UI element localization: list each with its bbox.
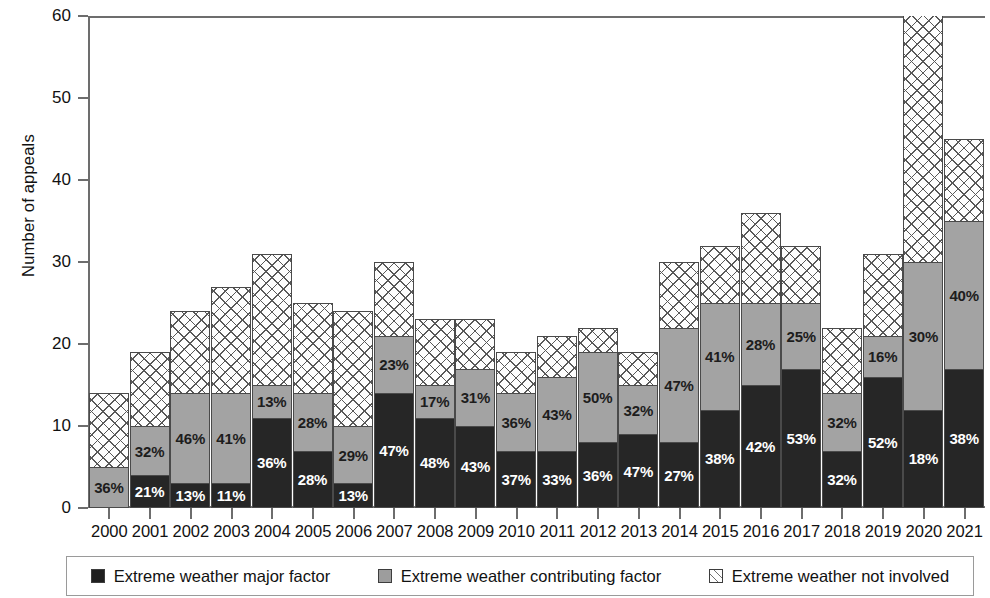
- bar-segment-hatch-2007[interactable]: [374, 262, 414, 336]
- bar-segment-hatch-2012[interactable]: [578, 328, 618, 353]
- bar-2020[interactable]: 30%18%: [903, 16, 943, 508]
- x-axis-tick-label: 2019: [865, 522, 902, 541]
- bar-segment-hatch-2008[interactable]: [415, 319, 455, 385]
- bar-segment-gray-2011[interactable]: 43%: [537, 377, 577, 451]
- bar-segment-gray-2012[interactable]: 50%: [578, 352, 618, 442]
- bar-segment-hatch-2015[interactable]: [700, 246, 740, 303]
- bar-segment-black-2007[interactable]: 47%: [374, 393, 414, 508]
- bar-segment-black-2019[interactable]: 52%: [863, 377, 903, 508]
- bar-segment-percent-label: 13%: [176, 488, 205, 503]
- bar-segment-black-2005[interactable]: 28%: [293, 451, 333, 508]
- bar-segment-hatch-2014[interactable]: [659, 262, 699, 328]
- bar-segment-black-2001[interactable]: 21%: [130, 475, 170, 508]
- bar-segment-black-2006[interactable]: 13%: [333, 483, 373, 508]
- bar-segment-hatch-2021[interactable]: [944, 139, 984, 221]
- bar-segment-hatch-2013[interactable]: [618, 352, 658, 385]
- chart-figure: Number of appeals 0102030405060 20002001…: [0, 0, 990, 598]
- bar-segment-black-2014[interactable]: 27%: [659, 442, 699, 508]
- bar-2008[interactable]: 17%48%: [415, 319, 455, 508]
- bar-2019[interactable]: 16%52%: [863, 254, 903, 508]
- bar-2000[interactable]: 36%: [89, 393, 129, 508]
- bar-segment-black-2017[interactable]: 53%: [781, 369, 821, 508]
- bar-2013[interactable]: 32%47%: [618, 352, 658, 508]
- bar-segment-black-2020[interactable]: 18%: [903, 410, 943, 508]
- bar-segment-hatch-2017[interactable]: [781, 246, 821, 303]
- bar-segment-gray-2004[interactable]: 13%: [252, 385, 292, 418]
- bar-2004[interactable]: 13%36%: [252, 254, 292, 508]
- bar-segment-gray-2010[interactable]: 36%: [496, 393, 536, 450]
- bar-2002[interactable]: 46%13%: [170, 311, 210, 508]
- bar-segment-gray-2008[interactable]: 17%: [415, 385, 455, 418]
- bar-segment-hatch-2019[interactable]: [863, 254, 903, 336]
- bar-2007[interactable]: 23%47%: [374, 262, 414, 508]
- bar-segment-black-2002[interactable]: 13%: [170, 483, 210, 508]
- bar-segment-gray-2007[interactable]: 23%: [374, 336, 414, 393]
- bar-segment-black-2004[interactable]: 36%: [252, 418, 292, 508]
- x-axis-tick-label: 2015: [702, 522, 739, 541]
- bar-segment-gray-2016[interactable]: 28%: [741, 303, 781, 385]
- bar-segment-gray-2006[interactable]: 29%: [333, 426, 373, 483]
- bar-segment-hatch-2000[interactable]: [89, 393, 129, 467]
- bar-segment-gray-2009[interactable]: 31%: [455, 369, 495, 426]
- bar-segment-gray-2020[interactable]: 30%: [903, 262, 943, 410]
- bar-2003[interactable]: 41%11%: [211, 287, 251, 508]
- bar-segment-percent-label: 46%: [176, 431, 205, 446]
- bar-segment-black-2015[interactable]: 38%: [700, 410, 740, 508]
- bar-segment-black-2018[interactable]: 32%: [822, 451, 862, 508]
- bar-segment-black-2009[interactable]: 43%: [455, 426, 495, 508]
- bar-segment-black-2008[interactable]: 48%: [415, 418, 455, 508]
- bar-2014[interactable]: 47%27%: [659, 262, 699, 508]
- bar-2018[interactable]: 32%32%: [822, 328, 862, 508]
- bar-2006[interactable]: 29%13%: [333, 311, 373, 508]
- bar-2005[interactable]: 28%28%: [293, 303, 333, 508]
- bar-segment-black-2013[interactable]: 47%: [618, 434, 658, 508]
- bar-segment-gray-2001[interactable]: 32%: [130, 426, 170, 475]
- bar-segment-hatch-2018[interactable]: [822, 328, 862, 394]
- bar-2021[interactable]: 40%38%: [944, 139, 984, 508]
- bar-segment-hatch-2020[interactable]: [903, 16, 943, 262]
- bar-segment-hatch-2006[interactable]: [333, 311, 373, 426]
- legend-item-1[interactable]: Extreme weather major factor: [91, 567, 330, 586]
- bar-segment-black-2016[interactable]: 42%: [741, 385, 781, 508]
- legend-item-3[interactable]: Extreme weather not involved: [709, 567, 949, 586]
- bar-segment-black-2012[interactable]: 36%: [578, 442, 618, 508]
- bar-segment-hatch-2011[interactable]: [537, 336, 577, 377]
- bar-segment-black-2011[interactable]: 33%: [537, 451, 577, 508]
- bar-segment-gray-2013[interactable]: 32%: [618, 385, 658, 434]
- bar-segment-gray-2021[interactable]: 40%: [944, 221, 984, 369]
- x-axis-tick: [475, 508, 477, 519]
- bar-group: 36%32%21%46%13%41%11%13%36%28%28%29%13%2…: [89, 16, 985, 508]
- bar-segment-hatch-2016[interactable]: [741, 213, 781, 303]
- bar-segment-gray-2003[interactable]: 41%: [211, 393, 251, 483]
- legend-item-2[interactable]: Extreme weather contributing factor: [378, 567, 661, 586]
- bar-2010[interactable]: 36%37%: [496, 352, 536, 508]
- bar-segment-black-2010[interactable]: 37%: [496, 451, 536, 508]
- bar-segment-black-2003[interactable]: 11%: [211, 483, 251, 508]
- bar-segment-hatch-2005[interactable]: [293, 303, 333, 393]
- bar-segment-gray-2005[interactable]: 28%: [293, 393, 333, 450]
- bar-2016[interactable]: 28%42%: [741, 213, 781, 508]
- bar-segment-percent-label: 17%: [420, 394, 449, 409]
- bar-segment-gray-2000[interactable]: 36%: [89, 467, 129, 508]
- bar-segment-hatch-2004[interactable]: [252, 254, 292, 385]
- bar-segment-gray-2015[interactable]: 41%: [700, 303, 740, 410]
- bar-2009[interactable]: 31%43%: [455, 319, 495, 508]
- bar-segment-gray-2017[interactable]: 25%: [781, 303, 821, 369]
- bar-segment-percent-label: 36%: [583, 468, 612, 483]
- bar-segment-gray-2019[interactable]: 16%: [863, 336, 903, 377]
- bar-segment-percent-label: 32%: [624, 403, 653, 418]
- bar-2011[interactable]: 43%33%: [537, 336, 577, 508]
- bar-2015[interactable]: 41%38%: [700, 246, 740, 508]
- bar-segment-hatch-2010[interactable]: [496, 352, 536, 393]
- bar-segment-black-2021[interactable]: 38%: [944, 369, 984, 508]
- bar-2012[interactable]: 50%36%: [578, 328, 618, 508]
- bar-segment-hatch-2009[interactable]: [455, 319, 495, 368]
- bar-segment-hatch-2001[interactable]: [130, 352, 170, 426]
- bar-segment-gray-2014[interactable]: 47%: [659, 328, 699, 443]
- bar-segment-gray-2002[interactable]: 46%: [170, 393, 210, 483]
- bar-segment-hatch-2002[interactable]: [170, 311, 210, 393]
- bar-2001[interactable]: 32%21%: [130, 352, 170, 508]
- bar-segment-hatch-2003[interactable]: [211, 287, 251, 394]
- bar-2017[interactable]: 25%53%: [781, 246, 821, 508]
- bar-segment-gray-2018[interactable]: 32%: [822, 393, 862, 450]
